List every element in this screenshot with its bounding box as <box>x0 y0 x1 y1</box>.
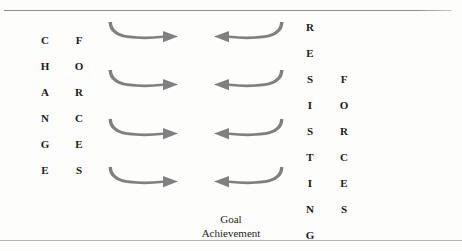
letter-glyph: A <box>38 79 52 105</box>
letter-glyph: R <box>303 14 317 40</box>
letter-glyph: E <box>303 40 317 66</box>
letter-glyph: T <box>303 144 317 170</box>
arrow-left-curved-icon <box>208 115 284 141</box>
arrow-right-curved-icon <box>108 115 184 141</box>
letter-glyph: F <box>337 66 351 92</box>
letter-glyph: R <box>337 118 351 144</box>
letter-glyph: E <box>72 131 86 157</box>
letter-glyph: E <box>38 157 52 183</box>
acrostic-column-forces-right: F O R C E S <box>337 66 351 222</box>
arrow-right-curved-icon <box>108 163 184 189</box>
letter-glyph: S <box>303 66 317 92</box>
arrow-left-curved-icon <box>208 18 284 44</box>
letter-glyph: O <box>72 53 86 79</box>
arrow-pair-row <box>108 163 284 189</box>
letter-glyph: F <box>72 27 86 53</box>
letter-glyph: O <box>337 92 351 118</box>
letter-glyph: R <box>72 79 86 105</box>
arrow-grid <box>108 18 284 203</box>
arrow-pair-row <box>108 115 284 141</box>
letter-glyph: C <box>337 144 351 170</box>
acrostic-column-change: C H A N G E <box>38 27 52 183</box>
arrow-left-curved-icon <box>208 163 284 189</box>
figure-canvas: C H A N G E F O R C E S R E S I S T I N … <box>0 0 462 251</box>
letter-glyph: G <box>38 131 52 157</box>
arrow-pair-row <box>108 66 284 92</box>
caption-line-achievement: Achievement <box>0 226 462 240</box>
letter-glyph: N <box>38 105 52 131</box>
arrow-left-curved-icon <box>208 66 284 92</box>
letter-glyph: I <box>303 170 317 196</box>
bottom-divider-rule <box>0 240 462 241</box>
top-divider-rule <box>4 10 452 11</box>
arrow-right-curved-icon <box>108 18 184 44</box>
letter-glyph: I <box>303 92 317 118</box>
arrow-right-curved-icon <box>108 66 184 92</box>
letter-glyph: E <box>337 170 351 196</box>
letter-glyph: S <box>303 118 317 144</box>
letter-glyph: S <box>72 157 86 183</box>
letter-glyph: C <box>72 105 86 131</box>
letter-glyph: C <box>38 27 52 53</box>
caption-line-goal: Goal <box>0 212 462 226</box>
arrow-pair-row <box>108 18 284 44</box>
acrostic-column-forces-left: F O R C E S <box>72 27 86 183</box>
figure-caption: Goal Achievement <box>0 212 462 240</box>
letter-glyph: H <box>38 53 52 79</box>
